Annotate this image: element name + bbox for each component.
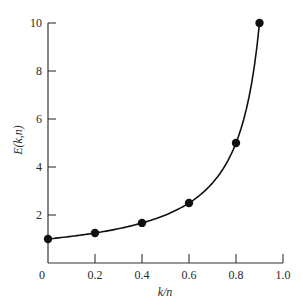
y-axis-label: E(k,n) <box>11 125 25 156</box>
data-point <box>44 235 52 243</box>
data-point <box>232 139 240 147</box>
x-tick-label: 1.0 <box>276 268 291 282</box>
x-tick-label: 0.6 <box>182 268 197 282</box>
data-markers <box>44 19 264 243</box>
x-tick-label: 0.8 <box>229 268 244 282</box>
y-tick-label: 8 <box>36 64 42 78</box>
data-point <box>255 19 263 27</box>
x-tick-label: 0.2 <box>88 268 103 282</box>
data-point <box>91 229 99 237</box>
chart: 00.20.40.60.81.0 246810 k/n E(k,n) <box>0 0 303 307</box>
y-tick-label: 4 <box>36 160 42 174</box>
data-point <box>138 219 146 227</box>
y-axis-ticks: 246810 <box>30 16 56 222</box>
axes <box>48 23 283 263</box>
x-tick-label: 0 <box>39 268 45 282</box>
data-point <box>185 199 193 207</box>
data-curve <box>48 23 260 239</box>
y-tick-label: 6 <box>36 112 42 126</box>
x-axis-ticks: 00.20.40.60.81.0 <box>39 254 291 282</box>
x-tick-label: 0.4 <box>135 268 150 282</box>
y-tick-label: 2 <box>36 208 42 222</box>
x-axis-label: k/n <box>158 285 173 299</box>
y-tick-label: 10 <box>30 16 42 30</box>
